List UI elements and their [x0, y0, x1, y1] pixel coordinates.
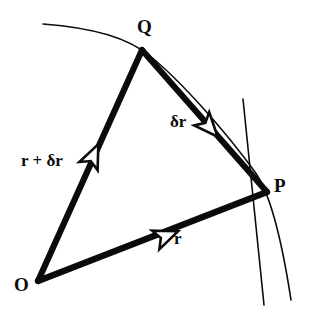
point-label-q: Q — [137, 17, 152, 36]
vector-label-r: r — [174, 230, 182, 247]
arrowhead-r-plus-delta-r — [79, 140, 107, 170]
diagram-canvas: O Q P r + δr δr r — [0, 0, 319, 309]
point-label-p: P — [274, 176, 286, 195]
vector-q-to-p-line — [142, 50, 267, 192]
vector-label-delta-r: δr — [170, 113, 186, 130]
vector-label-r-plus-delta-r: r + δr — [21, 152, 63, 169]
point-label-o: O — [14, 275, 29, 294]
